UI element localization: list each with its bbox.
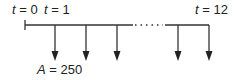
label-t12-eq: = 12: [199, 2, 228, 17]
arrowhead-down-icon: [175, 51, 182, 61]
arrowhead-down-icon: [114, 51, 121, 61]
label-t1-eq: = 1: [48, 2, 70, 17]
arrowhead-down-icon: [206, 51, 213, 61]
label-amount: A = 250: [37, 62, 82, 77]
arrowhead-down-icon: [52, 51, 59, 61]
label-amount-eq: = 250: [46, 62, 83, 77]
label-t0: t = 0: [12, 2, 38, 17]
label-t1: t = 1: [44, 2, 70, 17]
label-t0-eq: = 0: [16, 2, 38, 17]
label-amount-var: A: [37, 62, 46, 77]
label-t12: t = 12: [195, 2, 228, 17]
arrowhead-down-icon: [83, 51, 90, 61]
